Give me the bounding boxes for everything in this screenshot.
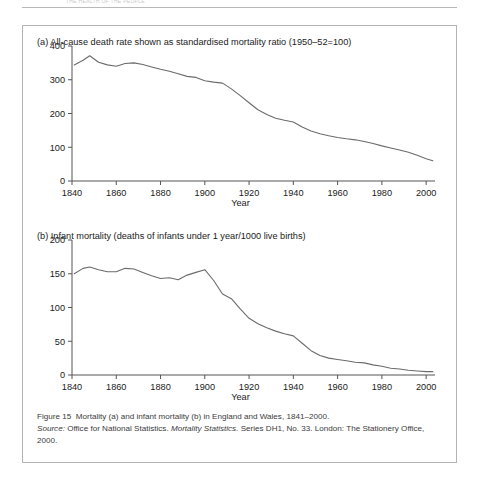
- svg-text:1960: 1960: [327, 188, 347, 198]
- chart-panel-b: 0501001502001840186018801900192019401960…: [23, 220, 458, 395]
- svg-text:1860: 1860: [106, 382, 126, 392]
- svg-text:1940: 1940: [283, 382, 303, 392]
- svg-text:400: 400: [50, 41, 65, 51]
- svg-text:1980: 1980: [372, 382, 392, 392]
- svg-text:2000: 2000: [416, 188, 436, 198]
- svg-text:1860: 1860: [106, 188, 126, 198]
- svg-text:1980: 1980: [372, 188, 392, 198]
- svg-text:300: 300: [50, 75, 65, 85]
- svg-text:1840: 1840: [62, 382, 82, 392]
- svg-text:100: 100: [50, 303, 65, 313]
- caption-source-line: Source: Office for National Statistics. …: [37, 423, 445, 447]
- svg-text:200: 200: [50, 109, 65, 119]
- svg-text:1960: 1960: [327, 382, 347, 392]
- svg-text:50: 50: [55, 337, 65, 347]
- caption-source-italic-title: Mortality Statistics.: [171, 424, 238, 433]
- svg-text:100: 100: [50, 143, 65, 153]
- running-head-rule: [22, 7, 457, 8]
- figure-box: (a) All-cause death rate shown as standa…: [22, 25, 457, 463]
- running-head: THE HEALTH OF THE PEOPLE: [22, 0, 457, 9]
- caption-source-text-1: Office for National Statistics.: [67, 424, 169, 433]
- panel-a-xaxis-label: Year: [23, 198, 458, 208]
- svg-text:2000: 2000: [416, 382, 436, 392]
- caption-figure-number: Figure 15: [37, 412, 71, 421]
- running-head-text: THE HEALTH OF THE PEOPLE: [66, 0, 145, 4]
- panel-b-xaxis-label: Year: [23, 392, 458, 402]
- svg-text:1940: 1940: [283, 188, 303, 198]
- svg-text:1920: 1920: [239, 188, 259, 198]
- figure-page: THE HEALTH OF THE PEOPLE (a) All-cause d…: [0, 0, 481, 485]
- chart-panel-a: 0100200300400184018601880190019201940196…: [23, 26, 458, 201]
- svg-text:1880: 1880: [150, 382, 170, 392]
- svg-text:1900: 1900: [195, 382, 215, 392]
- svg-text:0: 0: [60, 176, 65, 186]
- svg-text:1840: 1840: [62, 188, 82, 198]
- caption-line-1: Figure 15 Mortality (a) and infant morta…: [37, 411, 445, 423]
- svg-text:1880: 1880: [150, 188, 170, 198]
- svg-text:0: 0: [60, 370, 65, 380]
- svg-text:1920: 1920: [239, 382, 259, 392]
- caption-line-1-text: Mortality (a) and infant mortality (b) i…: [76, 412, 329, 421]
- svg-text:150: 150: [50, 269, 65, 279]
- svg-text:1900: 1900: [195, 188, 215, 198]
- figure-caption: Figure 15 Mortality (a) and infant morta…: [37, 411, 445, 448]
- svg-text:200: 200: [50, 235, 65, 245]
- caption-source-label: Source:: [37, 424, 65, 433]
